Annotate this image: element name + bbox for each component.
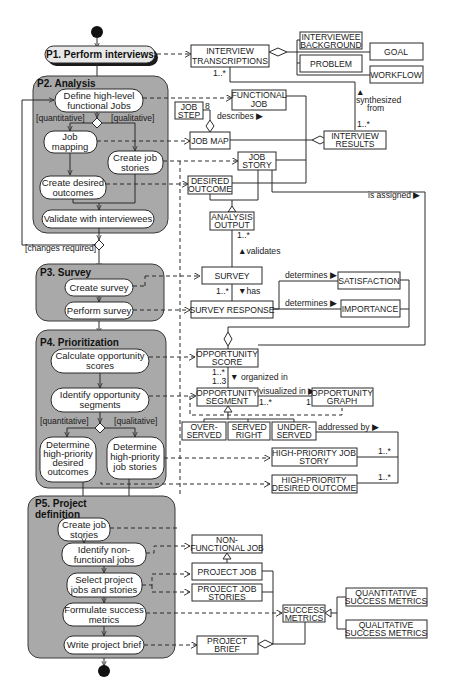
svg-text:WORKFLOW: WORKFLOW [370,70,422,80]
activity-validate-with-interviewees[interactable]: Validate with interviewees [42,210,154,228]
svg-text:BACKGROUND: BACKGROUND [300,40,362,50]
class-functional-job[interactable]: FUNCTIONAL JOB [232,90,287,110]
svg-text:▲validates: ▲validates [238,246,280,256]
class-survey-response[interactable]: SURVEY RESPONSE [189,301,274,318]
svg-text:Write project brief: Write project brief [67,639,142,650]
initial-node [91,26,103,38]
activity-determine-high-priority-job-stories[interactable]: Determine high-priority job stories [107,437,164,479]
svg-text:outcomes: outcomes [52,187,93,198]
class-importance[interactable]: IMPORTANCE [341,300,400,317]
svg-text:Perform survey: Perform survey [67,305,132,316]
generalization-arrow [223,553,231,559]
svg-text:Create survey: Create survey [69,282,128,293]
aggregation-diamond [269,48,287,56]
activity-formulate-success-metrics[interactable]: Formulate success metrics [63,603,146,626]
class-problem[interactable]: PROBLEM [300,55,362,72]
class-project-job-stories[interactable]: PROJECT JOB STORIES [192,584,262,602]
class-project-brief[interactable]: PROJECT BRIEF [197,636,258,654]
class-quantitative-success-metrics[interactable]: QUANTITATIVE SUCCESS METRICS [345,588,428,606]
activity-write-project-brief[interactable]: Write project brief [64,636,144,654]
phase-p5-title-line1: P5. Project [35,498,87,509]
aggregation-diamond [258,640,273,648]
phase-p1[interactable]: P1. Perform interviews [45,46,158,66]
class-survey[interactable]: SURVEY [202,267,262,284]
class-high-priority-job-story[interactable]: HIGH-PRIORITY JOB STORY [272,448,357,466]
svg-text:OUTCOME: OUTCOME [188,184,232,194]
svg-text:STEP: STEP [178,110,201,120]
svg-text:SCORE: SCORE [212,357,243,367]
activity-identify-opportunity-segments[interactable]: Identify opportunity segments [51,388,149,412]
activity-determine-high-priority-desired-outcomes[interactable]: Determine high-priority desired outcomes [40,437,96,482]
svg-text:BRIEF: BRIEF [214,644,239,654]
class-workflow[interactable]: WORKFLOW [370,66,423,83]
phase-p3-title: P3. Survey [40,267,92,278]
activity-create-survey[interactable]: Create survey [65,279,133,296]
svg-text:stories: stories [121,162,149,173]
multiplicity: 1..* [213,68,227,78]
class-opportunity-score[interactable]: OPPORTUNITY SCORE [196,349,258,367]
class-interview-results[interactable]: INTERVIEW RESULTS [324,131,386,149]
svg-text:JOB MAP: JOB MAP [191,136,229,146]
activity-job-mapping[interactable]: Job mapping [44,131,97,153]
svg-text:IMPORTANCE: IMPORTANCE [342,304,399,314]
class-under-served[interactable]: UNDER- SERVED [272,422,316,440]
class-goal[interactable]: GOAL [370,43,423,60]
svg-text:DESIRED OUTCOME: DESIRED OUTCOME [272,483,357,493]
svg-text:STORIES: STORIES [208,592,246,602]
class-high-priority-desired-outcome[interactable]: HIGH-PRIORITY DESIRED OUTCOME [272,475,357,493]
guard-quantitative-p2: [quantitative] [36,113,85,123]
svg-text:STORY: STORY [299,456,329,466]
svg-text:visualized in ▶: visualized in ▶ [259,386,315,396]
guard-qualitative-p4: [qualitative] [114,416,157,426]
class-over-served[interactable]: OVER- SERVED [182,422,226,440]
activity-create-job-stories-p5[interactable]: Create job stories [58,518,110,541]
svg-text:is assigned ▶: is assigned ▶ [368,190,420,200]
activity-define-high-level-functional-jobs[interactable]: Define high-level functional Jobs [55,89,143,112]
generalization-arrow [224,406,232,412]
activity-calculate-opportunity-scores[interactable]: Calculate opportunity scores [51,349,149,373]
multiplicity: 1..* [216,286,230,296]
class-opportunity-graph[interactable]: OPPORTUNITY GRAPH [311,388,373,406]
class-qualitative-success-metrics[interactable]: QUALITATIVE SUCCESS METRICS [345,620,428,638]
class-analysis-output[interactable]: ANALYSIS OUTPUT [210,212,254,230]
class-desired-outcome[interactable]: DESIRED OUTCOME [188,176,232,194]
svg-text:mapping: mapping [52,141,88,152]
multiplicity: 1..3 [212,376,227,386]
svg-text:GOAL: GOAL [384,47,408,57]
multiplicity: 1..* [237,230,251,240]
svg-text:SEGMENT: SEGMENT [206,396,249,406]
class-success-metrics[interactable]: SUCCESS METRICS [283,605,325,623]
class-job-step[interactable]: JOB STEP [175,102,203,120]
svg-text:stories: stories [70,529,98,540]
svg-text:GRAPH: GRAPH [327,396,358,406]
activity-select-project-jobs-and-stories[interactable]: Select project jobs and stories [67,573,142,597]
class-interview-transcriptions[interactable]: INTERVIEW TRANSCRIPTIONS [191,45,269,67]
svg-text:determines ▶: determines ▶ [285,270,337,280]
class-satisfaction[interactable]: SATISFACTION [338,272,400,289]
svg-text:RESULTS: RESULTS [336,139,375,149]
svg-text:functional Jobs: functional Jobs [67,100,131,111]
phase-p2-title: P2. Analysis [37,78,96,89]
svg-text:SURVEY RESPONSE: SURVEY RESPONSE [189,305,274,315]
class-job-story[interactable]: JOB STORY [238,152,276,170]
class-served-right[interactable]: SERVED RIGHT [228,422,270,440]
final-node [98,665,110,677]
svg-text:TRANSCRIPTIONS: TRANSCRIPTIONS [192,56,268,66]
svg-text:▼ organized in: ▼ organized in [230,372,288,382]
activity-create-job-stories-p2[interactable]: Create job stories [108,151,163,174]
activity-create-desired-outcomes[interactable]: Create desired outcomes [40,176,106,199]
svg-text:job stories: job stories [112,461,157,472]
class-interviewee-background[interactable]: INTERVIEWEE BACKGROUND [300,32,362,50]
composition-diamond [206,120,214,132]
svg-text:scores: scores [86,360,114,371]
multiplicity: 1..* [378,472,392,482]
svg-text:determines ▶: determines ▶ [285,298,337,308]
class-opportunity-segment[interactable]: OPPORTUNITY SEGMENT [196,388,258,406]
svg-text:from: from [367,103,384,113]
activity-perform-survey[interactable]: Perform survey [65,302,133,319]
class-job-map[interactable]: JOB MAP [190,132,230,149]
svg-text:INTERVIEW: INTERVIEW [206,46,254,56]
class-project-job[interactable]: PROJECT JOB [192,563,262,580]
activity-identify-non-functional-jobs[interactable]: Identify non- functional jobs [62,543,146,566]
class-non-functional-job[interactable]: NON- FUNCTIONAL JOB [190,535,264,553]
